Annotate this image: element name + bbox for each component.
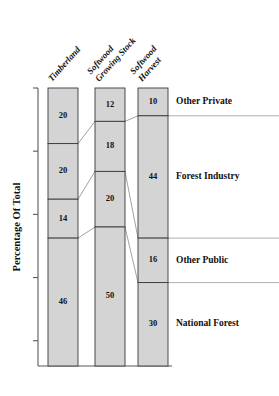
segment-value: 16: [149, 254, 158, 264]
column-header-2: SoftwoodGrowing Stock: [85, 28, 138, 83]
segment-value: 20: [59, 110, 68, 120]
connector-line: [125, 227, 138, 283]
y-axis-title-text: Percentage Of Total: [11, 182, 22, 271]
stacked-bar-chart: 202014461218205010441630 TimberlandSoftw…: [0, 0, 279, 396]
column-header-1: Timberland: [46, 44, 83, 83]
segment-value: 30: [149, 318, 158, 328]
segment-value: 10: [149, 96, 158, 106]
connector-line: [125, 171, 138, 238]
connector-line: [78, 171, 95, 199]
chart-canvas: 202014461218205010441630 TimberlandSoftw…: [0, 0, 279, 396]
column-header-line: Timberland: [46, 44, 83, 83]
connector-line: [125, 116, 138, 122]
category-label: Forest Industry: [176, 171, 240, 181]
segment-value: 20: [106, 193, 115, 203]
category-label: Other Public: [176, 255, 228, 265]
column-headers: TimberlandSoftwoodGrowing StockSoftwoodH…: [46, 28, 167, 84]
connector-line: [78, 227, 95, 238]
segment-value: 46: [59, 296, 68, 306]
connector-line: [78, 121, 95, 143]
category-label: National Forest: [176, 318, 240, 328]
segment-value: 50: [106, 290, 115, 300]
y-axis-title: Percentage Of Total: [11, 182, 22, 271]
column-header-3: SoftwoodHarvest: [127, 43, 167, 84]
category-labels: Other PrivateForest IndustryOther Public…: [176, 96, 240, 328]
segment-value: 12: [106, 99, 115, 109]
segment-value: 20: [59, 165, 68, 175]
segment-value: 14: [59, 213, 68, 223]
segment-value: 44: [149, 171, 158, 181]
category-label: Other Private: [176, 96, 232, 106]
segment-value: 18: [106, 140, 115, 150]
